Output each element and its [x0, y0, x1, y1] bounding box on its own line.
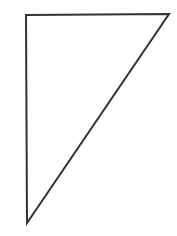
- triangle-diagram: [0, 0, 177, 236]
- right-triangle: [26, 14, 169, 223]
